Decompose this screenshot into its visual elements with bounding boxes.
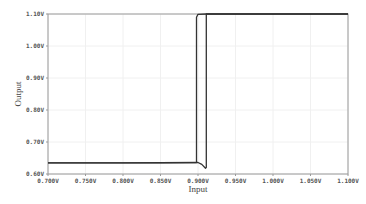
x-tick-label: 0.900V [187, 177, 209, 184]
x-tick-label: 0.800V [112, 177, 134, 184]
x-tick-label: 0.700V [37, 177, 59, 184]
y-tick-label: 0.80V [26, 106, 44, 113]
y-tick-label: 0.90V [26, 74, 44, 81]
x-tick-label: 0.950V [225, 177, 247, 184]
x-tick-label: 0.750V [75, 177, 97, 184]
grid [48, 14, 348, 174]
y-axis-ticks: 0.60V0.70V0.80V0.90V1.00V1.10V [26, 10, 48, 177]
y-tick-label: 1.10V [26, 10, 44, 17]
x-tick-label: 1.050V [300, 177, 322, 184]
y-tick-label: 1.00V [26, 42, 44, 49]
y-tick-label: 0.70V [26, 138, 44, 145]
x-tick-label: 1.100V [337, 177, 359, 184]
y-axis-title: Output [13, 81, 23, 107]
x-axis-ticks: 0.700V0.750V0.800V0.850V0.900V0.950V1.00… [37, 174, 359, 184]
x-tick-label: 0.850V [150, 177, 172, 184]
y-tick-label: 0.60V [26, 170, 44, 177]
x-axis-title: Input [189, 184, 208, 194]
x-tick-label: 1.000V [262, 177, 284, 184]
chart: 0.700V0.750V0.800V0.850V0.900V0.950V1.00… [0, 0, 366, 204]
